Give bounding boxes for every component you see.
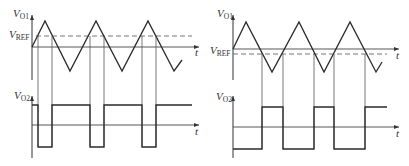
right-triangle-wave (233, 22, 382, 72)
left-guide-lines (38, 36, 156, 147)
right-t-label-top: t (396, 49, 400, 61)
left-vref-label: VREF (9, 28, 30, 42)
right-vo1-label: VO1 (217, 7, 233, 21)
left-square-wave (32, 105, 192, 147)
right-t-label-bottom: t (396, 127, 400, 139)
left-panel: VO1 VREF t VO2 t (9, 7, 199, 158)
right-panel: VO1 VREF t VO2 t (210, 7, 400, 158)
waveform-diagram: VO1 VREF t VO2 t VO1 VREF t (0, 0, 409, 166)
left-t-label-top: t (195, 46, 199, 58)
left-vo2-label: VO2 (14, 89, 30, 103)
left-triangle-wave (32, 21, 182, 71)
left-vo1-label: VO1 (13, 7, 29, 21)
right-square-wave (233, 107, 387, 149)
right-vo2-label: VO2 (216, 90, 232, 104)
left-t-label-bottom: t (195, 125, 199, 137)
right-vref-label: VREF (210, 44, 231, 58)
